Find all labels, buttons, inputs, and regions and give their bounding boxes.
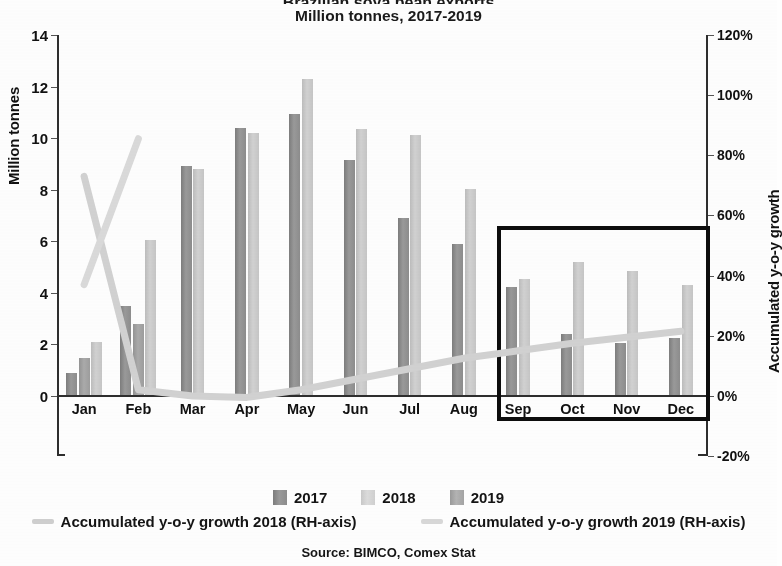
x-axis-label-Feb: Feb <box>125 401 151 417</box>
x-axis-label-Nov: Nov <box>613 401 640 417</box>
y-axis-left-label: 10 <box>31 130 48 147</box>
x-axis-label-Sep: Sep <box>505 401 532 417</box>
legend-line-2019-icon <box>421 519 443 524</box>
source-note: Source: BIMCO, Comex Stat <box>0 545 777 560</box>
legend-item-growth-2018[interactable]: Accumulated y-o-y growth 2018 (RH-axis) <box>32 513 357 530</box>
legend-item-2017[interactable]: 2017 <box>273 489 327 506</box>
legend-swatch-2017-icon <box>273 490 287 505</box>
x-axis-label-Aug: Aug <box>450 401 478 417</box>
y-axis-right-label: 80% <box>717 147 745 163</box>
y-axis-right-label: 0% <box>717 388 737 404</box>
y-axis-right-label: 20% <box>717 328 745 344</box>
y-axis-left-label: 14 <box>31 27 48 44</box>
x-axis-label-Jul: Jul <box>399 401 420 417</box>
legend-label-2018: 2018 <box>382 489 415 506</box>
y-axis-right-label: 40% <box>717 268 745 284</box>
chart-title: Brazilian soya bean exports <box>0 0 777 4</box>
legend-label-2017: 2017 <box>294 489 327 506</box>
legend-item-2018[interactable]: 2018 <box>361 489 415 506</box>
y-axis-left-label: 4 <box>40 285 48 302</box>
title-block: Brazilian soya bean exports Million tonn… <box>0 0 777 26</box>
growth-lines-layer <box>57 35 708 456</box>
x-axis-label-Jun: Jun <box>342 401 368 417</box>
legend-item-growth-2019[interactable]: Accumulated y-o-y growth 2019 (RH-axis) <box>421 513 746 530</box>
y-axis-right-label: 120% <box>717 27 753 43</box>
legend-label-growth-2019: Accumulated y-o-y growth 2019 (RH-axis) <box>450 513 746 530</box>
legend-label-2019: 2019 <box>471 489 504 506</box>
y-axis-right-label: 100% <box>717 87 753 103</box>
y-axis-right-title: Accumulated y-o-y growth <box>765 189 782 373</box>
legend-line-2018-icon <box>32 519 54 524</box>
legend-item-2019[interactable]: 2019 <box>450 489 504 506</box>
legend-row-lines: Accumulated y-o-y growth 2018 (RH-axis) … <box>0 513 777 530</box>
legend-label-growth-2018: Accumulated y-o-y growth 2018 (RH-axis) <box>61 513 357 530</box>
chart-legend: 2017 2018 2019 Accumulated y-o-y growth … <box>0 489 777 530</box>
y-tick-right <box>708 456 714 457</box>
chart-subtitle: Million tonnes, 2017-2019 <box>0 6 777 26</box>
y-axis-left-title: Million tonnes <box>5 87 22 185</box>
legend-swatch-2019-icon <box>450 490 464 505</box>
x-axis-label-Mar: Mar <box>180 401 206 417</box>
y-axis-left-label: 2 <box>40 336 48 353</box>
y-tick-right <box>708 155 714 156</box>
legend-row-bars: 2017 2018 2019 <box>0 489 777 506</box>
y-axis-right-label: -20% <box>717 448 750 464</box>
plot-area: 0 2 4 6 8 10 12 14 -20% 0% 20% 40% 60% 8… <box>57 35 708 456</box>
line-growth-2018 <box>84 176 681 397</box>
x-axis-label-May: May <box>287 401 315 417</box>
y-tick-right <box>708 215 714 216</box>
x-axis-label-Apr: Apr <box>234 401 259 417</box>
y-tick-right <box>708 95 714 96</box>
y-tick-right <box>708 35 714 36</box>
y-axis-left-label: 6 <box>40 233 48 250</box>
x-axis-label-Jan: Jan <box>72 401 97 417</box>
y-axis-left-label: 12 <box>31 79 48 96</box>
x-axis-label-Dec: Dec <box>668 401 695 417</box>
x-axis-label-Oct: Oct <box>560 401 584 417</box>
y-axis-left-label: 8 <box>40 182 48 199</box>
y-axis-right-label: 60% <box>717 207 745 223</box>
y-axis-left-label: 0 <box>40 388 48 405</box>
legend-swatch-2018-icon <box>361 490 375 505</box>
